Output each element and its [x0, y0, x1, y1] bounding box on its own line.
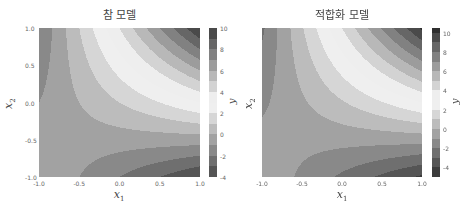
x-tick-label: 0.0 [337, 180, 347, 187]
x-tick-label: -0.5 [296, 180, 308, 187]
fitted-model-x-label: x1 [337, 188, 348, 203]
fitted-model-y-label: x2 [242, 98, 257, 109]
colorbar-tick-label: 0 [443, 125, 447, 132]
colorbar-tick-label: 10 [443, 29, 451, 36]
x-tick-label: 1.0 [417, 180, 427, 187]
x-label-subscript: 1 [343, 195, 347, 203]
fitted-model-contour-plot [262, 28, 422, 177]
colorbar-tick-label: 6 [443, 68, 447, 75]
colorbar-tick-label: 2 [443, 106, 447, 113]
y-label-text: x [242, 103, 255, 109]
x-tick-label: 0.5 [377, 180, 387, 187]
colorbar-tick-label: -2 [443, 145, 449, 152]
colorbar-tick-label: -4 [443, 164, 449, 171]
y-label-subscript: 2 [249, 98, 257, 102]
colorbar-tick-label: 8 [443, 49, 447, 56]
colorbar-tick-label: 4 [443, 87, 447, 94]
fitted-model-colorbar-label: y [449, 99, 460, 105]
fitted-model-title: 적합화 모델 [262, 6, 422, 22]
fitted-model-panel: 적합화 모델 -1.0-0.50.00.51.0 1086420-2-4 x1 … [0, 0, 473, 208]
fitted-model-colorbar [432, 28, 440, 177]
x-tick-label: -1.0 [256, 180, 268, 187]
